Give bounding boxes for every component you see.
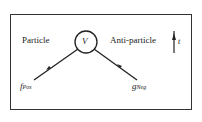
g-sub: Neg: [137, 84, 147, 90]
time-arrow-icon: [172, 33, 176, 40]
f-sub: Pos: [23, 84, 32, 90]
left-leg-line: [34, 49, 78, 80]
time-axis-label: t: [178, 37, 180, 46]
f-pos-label: fPos: [20, 81, 32, 91]
right-leg-line: [94, 49, 137, 80]
anti-particle-label: Anti-particle: [110, 35, 156, 45]
feynman-diagram: [0, 0, 202, 122]
particle-label: Particle: [22, 35, 50, 45]
g-neg-label: gNeg: [132, 81, 146, 91]
vertex-label: V: [82, 36, 88, 46]
